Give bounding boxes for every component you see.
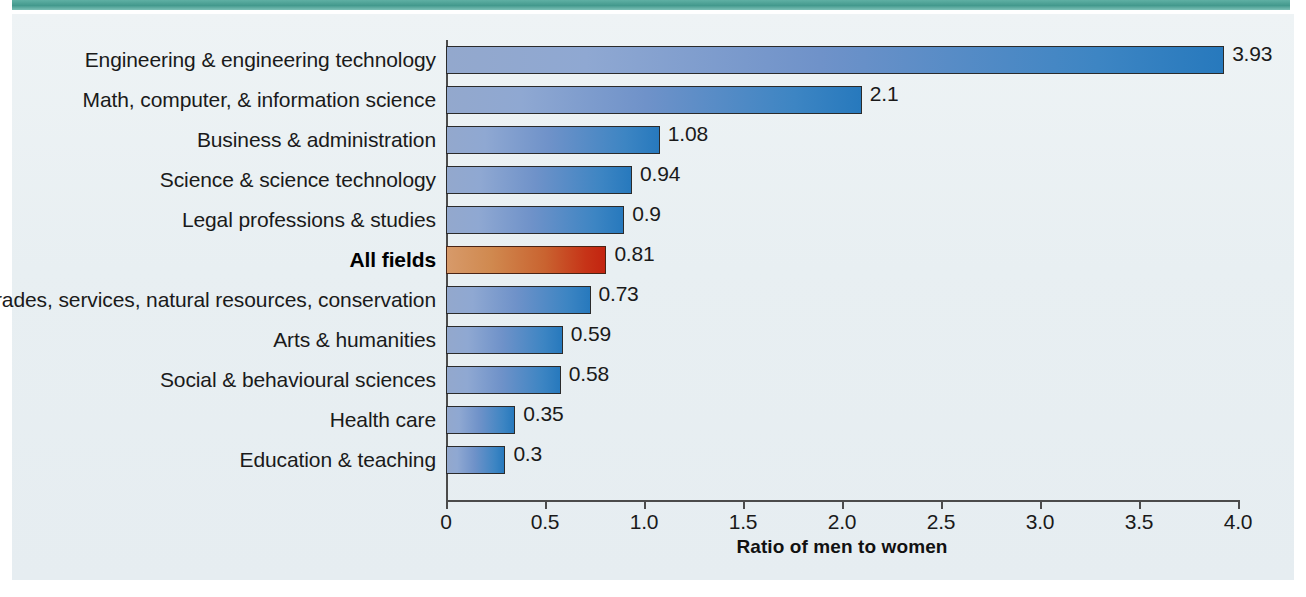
bar-container — [446, 246, 606, 274]
bar-highlight[interactable] — [446, 246, 606, 274]
x-tick — [743, 500, 745, 509]
x-tick-label: 3.5 — [1125, 510, 1154, 534]
bar-container — [446, 86, 862, 114]
category-label: Engineering & engineering technology — [85, 40, 436, 80]
bar-value-label: 0.81 — [614, 240, 654, 268]
x-tick — [545, 500, 547, 509]
bar[interactable] — [446, 46, 1224, 74]
bar[interactable] — [446, 286, 591, 314]
bar-row[interactable]: Science & science technology0.94 — [0, 160, 1306, 200]
x-tick-label: 1.0 — [630, 510, 659, 534]
bar-container — [446, 406, 515, 434]
x-tick — [1238, 500, 1240, 509]
bar-value-label: 0.94 — [640, 160, 680, 188]
bar-container — [446, 46, 1224, 74]
bar-row[interactable]: Legal professions & studies0.9 — [0, 200, 1306, 240]
x-tick-label: 4.0 — [1224, 510, 1253, 534]
category-label: Arts & humanities — [273, 320, 436, 360]
category-label: Business & administration — [197, 120, 436, 160]
category-label: Education & teaching — [240, 440, 436, 480]
bar-value-label: 0.3 — [513, 440, 542, 468]
bar[interactable] — [446, 86, 862, 114]
bar-value-label: 0.35 — [523, 400, 563, 428]
bar[interactable] — [446, 366, 561, 394]
bar-row[interactable]: Business & administration1.08 — [0, 120, 1306, 160]
chart-figure: 00.51.01.52.02.53.03.54.0 Engineering & … — [0, 0, 1306, 597]
x-tick — [842, 500, 844, 509]
bar-container — [446, 286, 591, 314]
bar-container — [446, 366, 561, 394]
category-label: Health care — [330, 400, 436, 440]
bar[interactable] — [446, 406, 515, 434]
x-tick-label: 1.5 — [729, 510, 758, 534]
x-axis-title: Ratio of men to women — [446, 536, 1238, 558]
bar-row[interactable]: Social & behavioural sciences0.58 — [0, 360, 1306, 400]
bar-row[interactable]: Trades, services, natural resources, con… — [0, 280, 1306, 320]
bar-container — [446, 206, 624, 234]
bar-value-label: 3.93 — [1232, 40, 1272, 68]
x-tick-label: 3.0 — [1026, 510, 1055, 534]
bar-value-label: 0.9 — [632, 200, 661, 228]
accent-band — [12, 0, 1290, 10]
x-tick-label: 0 — [440, 510, 451, 534]
bar-container — [446, 166, 632, 194]
x-tick-label: 0.5 — [531, 510, 560, 534]
bar[interactable] — [446, 126, 660, 154]
bar-value-label: 2.1 — [870, 80, 899, 108]
category-label: Legal professions & studies — [182, 200, 436, 240]
bar-value-label: 0.73 — [599, 280, 639, 308]
bar-row[interactable]: Health care0.35 — [0, 400, 1306, 440]
bar-row[interactable]: All fields0.81 — [0, 240, 1306, 280]
bar-row[interactable]: Education & teaching0.3 — [0, 440, 1306, 480]
bar-container — [446, 446, 505, 474]
x-tick-label: 2.5 — [927, 510, 956, 534]
bar-value-label: 0.58 — [569, 360, 609, 388]
bar[interactable] — [446, 446, 505, 474]
bar-row[interactable]: Engineering & engineering technology3.93 — [0, 40, 1306, 80]
x-tick — [446, 500, 448, 509]
bar[interactable] — [446, 206, 624, 234]
x-tick — [1139, 500, 1141, 509]
bar[interactable] — [446, 166, 632, 194]
category-label: All fields — [349, 240, 436, 280]
x-tick — [644, 500, 646, 509]
category-label: Trades, services, natural resources, con… — [0, 280, 436, 320]
bar-row[interactable]: Math, computer, & information science2.1 — [0, 80, 1306, 120]
bar[interactable] — [446, 326, 563, 354]
bar-value-label: 1.08 — [668, 120, 708, 148]
bar-container — [446, 126, 660, 154]
bar-value-label: 0.59 — [571, 320, 611, 348]
category-label: Science & science technology — [160, 160, 436, 200]
x-tick — [941, 500, 943, 509]
x-tick-label: 2.0 — [828, 510, 857, 534]
bar-row[interactable]: Arts & humanities0.59 — [0, 320, 1306, 360]
x-tick — [1040, 500, 1042, 509]
category-label: Math, computer, & information science — [83, 80, 436, 120]
category-label: Social & behavioural sciences — [160, 360, 436, 400]
bar-container — [446, 326, 563, 354]
